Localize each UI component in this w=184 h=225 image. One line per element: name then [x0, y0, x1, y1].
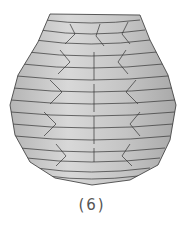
- basket-body: [10, 14, 176, 185]
- figure-caption: (6): [0, 196, 184, 214]
- woven-basket-illustration: [0, 0, 184, 195]
